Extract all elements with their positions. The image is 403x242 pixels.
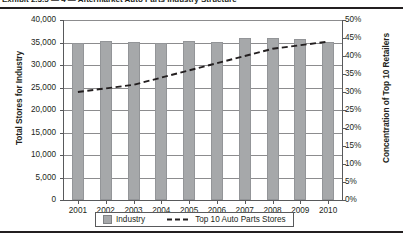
y-axis-left-tickmark (60, 43, 64, 44)
y-axis-right-tickmark (342, 20, 346, 21)
bar (267, 38, 279, 200)
figure-caption: Exhibit 2.3.5 — 4 — Aftermarket Auto Par… (2, 0, 237, 4)
y-axis-left-tickmark (60, 200, 64, 201)
x-axis-tickmark (328, 200, 329, 204)
x-axis-tickmark (161, 200, 162, 204)
y-axis-right-tickmark (342, 164, 346, 165)
bar (183, 41, 195, 200)
y-axis-right-tick-label: 15% (345, 142, 361, 150)
y-axis-left-tickmark (60, 65, 64, 66)
gridline (64, 20, 342, 21)
y-axis-right-tick-label: 35% (345, 70, 361, 78)
bottom-divider-rule (0, 231, 403, 233)
y-axis-left-tick-labels: 05,00010,00015,00020,00025,00030,00035,0… (14, 9, 56, 189)
y-axis-left-tickmark (60, 155, 64, 156)
bar (239, 38, 251, 200)
y-axis-right-tickmark (342, 110, 346, 111)
y-axis-left-tickmark (60, 178, 64, 179)
bar (211, 42, 223, 200)
dashed-line-icon (167, 216, 191, 223)
bar (322, 42, 334, 200)
x-axis-tick-label: 2010 (314, 206, 342, 215)
bar (155, 43, 167, 200)
figure-caption-strip: Exhibit 2.3.5 — 4 — Aftermarket Auto Par… (0, 0, 403, 7)
y-axis-right-tick-label: 5% (345, 178, 357, 186)
y-axis-left-tick-label: 30,000 (31, 61, 56, 69)
x-axis-tickmark (245, 200, 246, 204)
x-axis-tickmark (273, 200, 274, 204)
y-axis-left-tick-label: 40,000 (31, 16, 56, 24)
chart-figure: Total Stores for Industry Concentration … (0, 9, 403, 231)
y-axis-left-tick-label: 5,000 (36, 174, 57, 182)
y-axis-right-tick-label: 40% (345, 52, 361, 60)
bar (72, 43, 84, 200)
bar (100, 41, 112, 200)
y-axis-right-tickmark (342, 182, 346, 183)
x-axis-tickmark (106, 200, 107, 204)
y-axis-right-tickmark (342, 56, 346, 57)
bar (294, 39, 306, 200)
y-axis-left-tick-label: 25,000 (31, 84, 56, 92)
y-axis-right-tickmark (342, 146, 346, 147)
y-axis-right-tickmark (342, 92, 346, 93)
x-axis-tickmark (189, 200, 190, 204)
y-axis-left-tickmark (60, 133, 64, 134)
y-axis-left-tick-label: 20,000 (31, 106, 56, 114)
y-axis-left-tickmark (60, 110, 64, 111)
x-axis-tickmark (300, 200, 301, 204)
y-axis-right-tick-label: 25% (345, 106, 361, 114)
y-axis-right-tick-label: 10% (345, 160, 361, 168)
y-axis-right-tickmark (342, 200, 346, 201)
y-axis-right-tick-labels: 0%5%10%15%20%25%30%35%40%45%50% (345, 9, 379, 189)
plot-area: 2001200220032004200520062007200820092010 (63, 20, 342, 201)
y-axis-left-tick-label: 10,000 (31, 151, 56, 159)
x-axis-tickmark (78, 200, 79, 204)
legend-label-industry: Industry (116, 215, 145, 224)
legend-swatch-industry (103, 215, 112, 224)
y-axis-right-title: Concentration of Top 10 Retailers (381, 18, 391, 178)
y-axis-left-tickmark (60, 88, 64, 89)
chart-legend: Industry Top 10 Auto Parts Stores (95, 212, 294, 227)
y-axis-right-tickmark (342, 74, 346, 75)
y-axis-right-tick-label: 50% (345, 16, 361, 24)
y-axis-right-tick-label: 30% (345, 88, 361, 96)
x-axis-tick-label: 2001 (64, 206, 92, 215)
y-axis-right-tick-label: 45% (345, 34, 361, 42)
legend-label-top-10-auto-parts-stores: Top 10 Auto Parts Stores (195, 215, 286, 224)
y-axis-right-tickmark (342, 38, 346, 39)
y-axis-left-tickmark (60, 20, 64, 21)
bar (128, 42, 140, 200)
y-axis-right-tickmark (342, 128, 346, 129)
legend-dash-top-10-auto-parts-stores (167, 216, 191, 223)
y-axis-left-tick-label: 15,000 (31, 129, 56, 137)
y-axis-left-tick-label: 0 (51, 196, 56, 204)
y-axis-left-tick-label: 35,000 (31, 39, 56, 47)
x-axis-tickmark (134, 200, 135, 204)
x-axis-tickmark (217, 200, 218, 204)
y-axis-right-tick-label: 0% (345, 196, 357, 204)
y-axis-right-tick-label: 20% (345, 124, 361, 132)
